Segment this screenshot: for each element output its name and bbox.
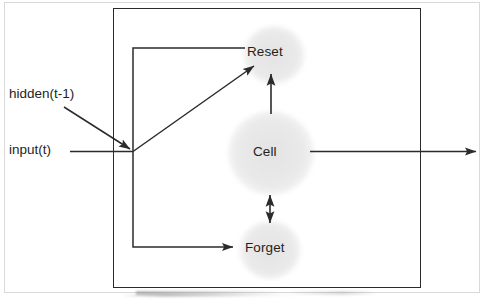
- connector-wires: [0, 0, 487, 304]
- edge-junction-bracket-to-forget: [133, 152, 233, 248]
- input-label-hidden-state: hidden(t-1): [9, 86, 74, 101]
- node-label-forget: Forget: [245, 240, 285, 255]
- node-label-cell: Cell: [253, 144, 277, 159]
- edge-hidden-to-junction: [64, 107, 130, 149]
- diagram-page: Reset Cell Forget hidden(t-1) input(t): [0, 0, 487, 304]
- edge-junction-bracket-to-reset: [133, 48, 245, 152]
- node-label-reset: Reset: [247, 44, 283, 59]
- input-label-input: input(t): [9, 142, 51, 157]
- edge-junction-to-reset-diagonal: [133, 66, 254, 152]
